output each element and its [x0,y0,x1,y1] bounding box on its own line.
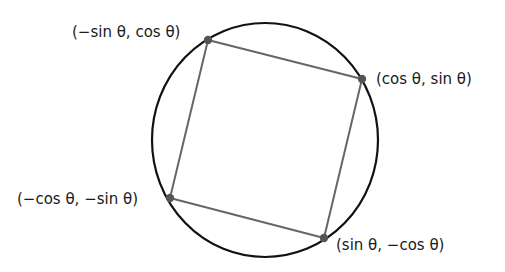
label-top: (−sin θ, cos θ) [72,23,180,41]
inscribed-square [170,40,362,238]
vertex-point-top [204,36,212,44]
label-bottom: (sin θ, −cos θ) [336,236,444,254]
label-left: (−cos θ, −sin θ) [17,190,138,208]
vertex-point-bottom [320,234,328,242]
label-right: (cos θ, sin θ) [376,70,472,88]
vertex-points [166,36,366,242]
vertex-point-right [358,75,366,83]
inscribed-square-diagram: (−sin θ, cos θ) (cos θ, sin θ) (sin θ, −… [0,0,505,272]
vertex-point-left [166,194,174,202]
vertex-labels: (−sin θ, cos θ) (cos θ, sin θ) (sin θ, −… [17,23,472,254]
